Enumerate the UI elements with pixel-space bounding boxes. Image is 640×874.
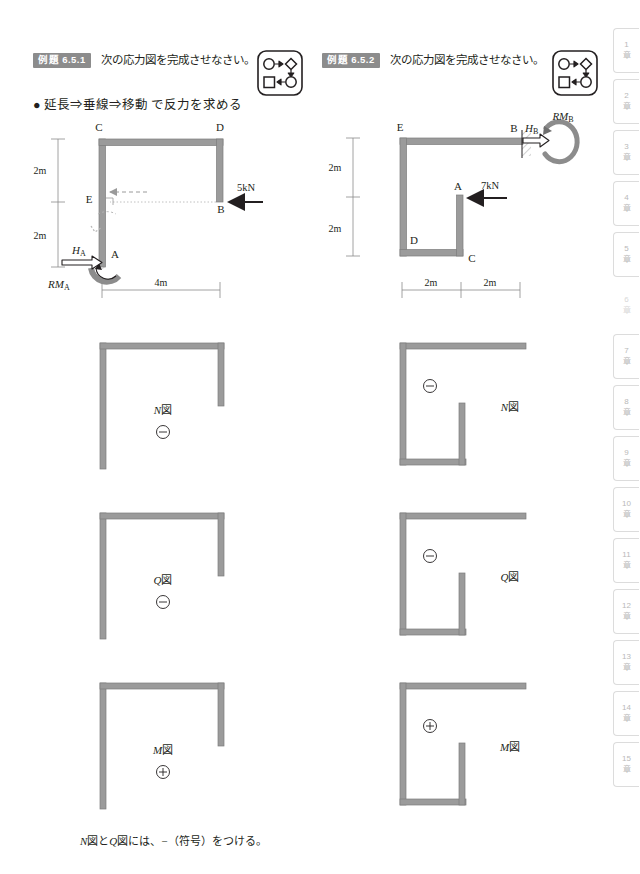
diagram-label-N-right: N図	[500, 401, 519, 413]
dim-2m-right-span: 2m	[484, 277, 497, 288]
problem-badge-652: 例題 6.5.2	[322, 53, 380, 68]
chapter-tab-5[interactable]: 5章	[613, 232, 639, 277]
figure-main-right: E B A D C HB RMB	[320, 110, 620, 310]
diagram-M-right: M図	[370, 675, 620, 820]
diagram-label-Q-right: Q図	[501, 571, 520, 583]
chapter-tab-number: 4	[624, 193, 628, 204]
chapter-tab-number: 7	[624, 346, 628, 357]
flow-diagram-icon-left	[256, 49, 304, 97]
chapter-tab-number: 12	[622, 601, 631, 612]
sign-marker-plus-M-right	[424, 720, 437, 733]
dim-2m-upper-right: 2m	[329, 162, 342, 173]
footnote-text: N図とQ図には、−（符号）をつける。	[80, 832, 267, 848]
load-label-7kn: 7kN	[481, 180, 500, 191]
footnote-rest: 図には、−（符号）をつける。	[117, 835, 266, 847]
chapter-tab-12[interactable]: 12章	[613, 589, 639, 634]
chapter-tab-number: 10	[622, 499, 631, 510]
diagram-N-left: N図	[60, 335, 310, 480]
chapter-tab-number: 11	[622, 550, 630, 561]
diagram-label-N-left: N図	[153, 404, 172, 416]
chapter-tab-14[interactable]: 14章	[613, 691, 639, 736]
diagram-M-left: M図	[60, 675, 310, 820]
chapter-tab-number: 14	[622, 703, 631, 714]
dim-4m: 4m	[155, 277, 168, 288]
chapter-tab-10[interactable]: 10章	[613, 487, 639, 532]
textbook-page: 例題 6.5.1 次の応力図を完成させなさい。 ● 延長⇒垂線⇒移動 で反力を求…	[0, 0, 640, 874]
node-label-A-right: A	[454, 180, 462, 192]
problem-header-left: 例題 6.5.1 次の応力図を完成させなさい。	[33, 53, 255, 68]
chapter-tab-number: 3	[624, 142, 628, 153]
node-label-C: C	[95, 121, 102, 133]
reaction-label-RMA: RMA	[47, 278, 70, 292]
chapter-tab-unit: 章	[623, 306, 631, 317]
chapter-tab-11[interactable]: 11章	[613, 538, 639, 583]
chapter-tab-unit: 章	[623, 255, 631, 266]
node-label-B-right: B	[510, 122, 517, 134]
diagram-label-M-left: M図	[152, 744, 173, 756]
chapter-tab-number: 6	[624, 295, 628, 306]
chapter-tab-unit: 章	[623, 459, 631, 470]
node-label-E: E	[86, 193, 93, 205]
chapter-tab-unit: 章	[623, 561, 631, 572]
figure-main-left: C D E B A 5kN	[20, 110, 320, 310]
sign-marker-minus-Q-left	[157, 596, 170, 609]
node-label-B: B	[217, 203, 224, 215]
sign-marker-minus-N-right	[424, 380, 437, 393]
dim-2m-lower-left: 2m	[34, 230, 47, 241]
dim-2m-left-span: 2m	[425, 277, 438, 288]
node-label-D: D	[216, 121, 224, 133]
dimension-horizontal-right	[402, 282, 520, 298]
chapter-tab-unit: 章	[623, 51, 631, 62]
dim-2m-upper-left: 2m	[34, 165, 47, 176]
dimension-vertical-left	[51, 139, 65, 267]
chapter-tab-unit: 章	[623, 357, 631, 368]
chapter-tab-6[interactable]: 6章	[613, 283, 639, 328]
dim-2m-lower-right: 2m	[329, 223, 342, 234]
chapter-tab-unit: 章	[623, 663, 631, 674]
diagram-Q-left: Q図	[60, 505, 310, 650]
chapter-tab-7[interactable]: 7章	[613, 334, 639, 379]
chapter-tab-3[interactable]: 3章	[613, 130, 639, 175]
node-label-D-right: D	[410, 234, 418, 246]
chapter-tab-unit: 章	[623, 408, 631, 419]
chapter-tab-number: 2	[624, 91, 628, 102]
chapter-tab-unit: 章	[623, 510, 631, 521]
chapter-tab-4[interactable]: 4章	[613, 181, 639, 226]
reaction-label-HB: HB	[524, 122, 538, 136]
dimension-vertical-right	[346, 138, 360, 256]
problem-header-right: 例題 6.5.2 次の応力図を完成させなさい。	[322, 53, 544, 68]
chapter-tab-number: 1	[624, 40, 628, 51]
chapter-tab-unit: 章	[623, 102, 631, 113]
node-label-E-right: E	[397, 121, 404, 133]
sign-marker-minus-Q-right	[424, 550, 437, 563]
chapter-tab-9[interactable]: 9章	[613, 436, 639, 481]
problem-prompt-652: 次の応力図を完成させなさい。	[390, 53, 544, 67]
footnote-mid1: 図と	[87, 835, 109, 847]
diagram-label-M-right: M図	[499, 741, 520, 753]
chapter-tab-13[interactable]: 13章	[613, 640, 639, 685]
chapter-tab-unit: 章	[623, 153, 631, 164]
chapter-tab-unit: 章	[623, 765, 631, 776]
chapter-tab-unit: 章	[623, 714, 631, 725]
load-label-5kn: 5kN	[237, 182, 256, 193]
right-angle-mark	[106, 198, 113, 205]
chapter-tab-unit: 章	[623, 204, 631, 215]
chapter-tab-15[interactable]: 15章	[613, 742, 639, 787]
chapter-tab-1[interactable]: 1章	[613, 28, 639, 73]
node-label-A: A	[111, 248, 119, 260]
chapter-tab-2[interactable]: 2章	[613, 79, 639, 124]
chapter-tab-strip: 1章2章3章4章5章6章7章8章9章10章11章12章13章14章15章	[610, 28, 640, 793]
chapter-tab-number: 8	[624, 397, 628, 408]
reaction-label-RMB: RMB	[551, 110, 573, 124]
problem-badge-651: 例題 6.5.1	[33, 53, 91, 68]
diagram-label-Q-left: Q図	[154, 574, 173, 586]
diagram-N-right: N図	[370, 335, 620, 480]
chapter-tab-number: 5	[624, 244, 628, 255]
flow-diagram-icon-right	[551, 49, 599, 97]
diagram-Q-right: Q図	[370, 505, 620, 650]
reaction-label-HA: HA	[71, 244, 86, 258]
support-fixed-wall-B	[522, 130, 531, 158]
chapter-tab-number: 9	[624, 448, 628, 459]
sign-marker-minus-N-left	[157, 426, 170, 439]
chapter-tab-8[interactable]: 8章	[613, 385, 639, 430]
